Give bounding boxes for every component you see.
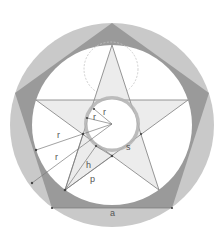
label-r-inner-1: r bbox=[93, 112, 96, 122]
label-r-outer-1: r bbox=[57, 130, 60, 140]
label-s: s bbox=[126, 142, 131, 152]
label-a: a bbox=[110, 208, 115, 218]
label-p: p bbox=[90, 174, 95, 184]
label-h: h bbox=[86, 160, 91, 170]
label-r-inner-2: r bbox=[103, 107, 106, 117]
label-r-outer-2: r bbox=[55, 152, 58, 162]
pentagram-diagram: r r r r h p s a bbox=[0, 0, 223, 242]
